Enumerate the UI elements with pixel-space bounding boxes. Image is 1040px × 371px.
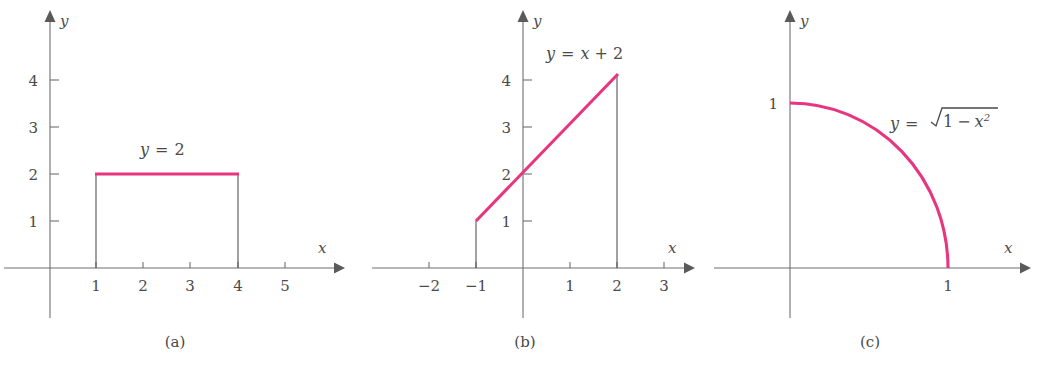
y-ticklabel-2-b: 2 bbox=[501, 166, 511, 184]
y-axis-arrowhead-c bbox=[785, 10, 796, 22]
panel-a-plot: 1 2 3 4 5 1 2 3 4 x y y=2 bbox=[0, 0, 350, 340]
y-ticklabel-2-a: 2 bbox=[28, 166, 38, 184]
equation-label-c: y= 1−x2 bbox=[889, 108, 998, 133]
y-axis-arrowhead-b bbox=[518, 10, 529, 22]
x-axis-arrowhead-c bbox=[1020, 263, 1031, 274]
y-ticklabel-4-b: 4 bbox=[501, 72, 511, 90]
x-ticklabel-5-a: 5 bbox=[280, 277, 290, 295]
y-axis-label-b: y bbox=[532, 12, 542, 30]
y-axis-label-a: y bbox=[59, 12, 69, 30]
y-ticklabel-1-a: 1 bbox=[28, 213, 38, 231]
x-ticklabel-1-c: 1 bbox=[943, 277, 953, 295]
x-ticklabel-neg1-b: −1 bbox=[465, 277, 487, 295]
x-ticklabel-neg2-b: −2 bbox=[418, 277, 440, 295]
panel-c: 1 1 x y y= 1−x2 (c) bbox=[700, 0, 1040, 371]
panel-c-plot: 1 1 x y y= 1−x2 bbox=[700, 0, 1040, 340]
x-axis-label-c: x bbox=[1004, 239, 1013, 257]
x-ticklabel-3-b: 3 bbox=[659, 277, 669, 295]
equation-label-a: y=2 bbox=[139, 140, 185, 159]
panel-caption-c: (c) bbox=[700, 333, 1040, 351]
panel-caption-b: (b) bbox=[350, 333, 700, 351]
x-axis-label-b: x bbox=[668, 239, 677, 257]
panel-b: −2 −1 1 2 3 1 2 3 4 x y y=x+2 (b) bbox=[350, 0, 700, 371]
equation-label-b: y=x+2 bbox=[545, 44, 623, 63]
y-ticklabel-1-b: 1 bbox=[501, 213, 511, 231]
panel-a: 1 2 3 4 5 1 2 3 4 x y y=2 (a) bbox=[0, 0, 350, 371]
figure-three-graphs: 1 2 3 4 5 1 2 3 4 x y y=2 (a) bbox=[0, 0, 1040, 371]
equation-label-c-text: y= bbox=[889, 114, 918, 133]
panel-caption-a: (a) bbox=[0, 333, 350, 351]
y-axis-label-c: y bbox=[799, 12, 809, 30]
y-ticklabel-4-a: 4 bbox=[28, 72, 38, 90]
equation-radicand-c: 1−x2 bbox=[943, 112, 990, 131]
x-ticklabel-1-a: 1 bbox=[91, 277, 101, 295]
x-ticklabel-2-b: 2 bbox=[612, 277, 622, 295]
y-axis-arrowhead-a bbox=[45, 10, 56, 22]
x-ticklabel-4-a: 4 bbox=[233, 277, 243, 295]
curve-y-equals-x-plus-2 bbox=[476, 74, 618, 221]
curve-quarter-circle bbox=[790, 103, 948, 268]
y-ticklabel-3-b: 3 bbox=[501, 119, 511, 137]
x-ticklabel-2-a: 2 bbox=[138, 277, 148, 295]
y-ticklabel-3-a: 3 bbox=[28, 119, 38, 137]
x-axis-arrowhead-a bbox=[334, 263, 345, 274]
x-ticklabel-1-b: 1 bbox=[565, 277, 575, 295]
y-ticklabel-1-c: 1 bbox=[768, 95, 778, 113]
x-ticklabel-3-a: 3 bbox=[185, 277, 195, 295]
x-axis-arrowhead-b bbox=[684, 263, 695, 274]
panel-b-plot: −2 −1 1 2 3 1 2 3 4 x y y=x+2 bbox=[350, 0, 700, 340]
x-axis-label-a: x bbox=[318, 239, 327, 257]
